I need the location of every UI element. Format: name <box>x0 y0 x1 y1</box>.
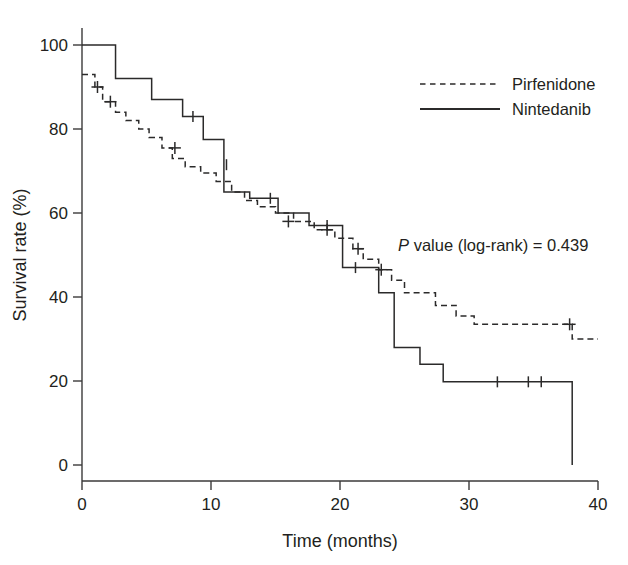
x-axis-ticks: 010203040 <box>77 481 607 514</box>
y-tick-label: 60 <box>49 204 68 223</box>
legend-label-pirfenidone: Pirfenidone <box>512 75 595 93</box>
x-tick-label: 40 <box>589 495 608 514</box>
x-axis-title: Time (months) <box>282 531 397 551</box>
x-tick-label: 30 <box>460 495 479 514</box>
legend-label-nintedanib: Nintedanib <box>512 100 591 118</box>
y-tick-label: 80 <box>49 120 68 139</box>
x-tick-label: 20 <box>331 495 350 514</box>
p-value-rest: value (log-rank) = 0.439 <box>409 236 588 254</box>
chart-canvas: 020406080100 010203040 Survival rate (%)… <box>0 0 628 565</box>
p-value-annotation: P value (log-rank) = 0.439 <box>398 236 588 254</box>
x-tick-label: 0 <box>77 495 86 514</box>
y-tick-label: 40 <box>49 288 68 307</box>
censor-marks <box>91 81 575 387</box>
chart-legend: PirfenidoneNintedanib <box>420 75 595 118</box>
p-symbol: P <box>398 236 409 254</box>
axis-group <box>82 28 598 481</box>
y-axis-title: Survival rate (%) <box>10 188 30 321</box>
y-tick-label: 20 <box>49 372 68 391</box>
x-tick-label: 10 <box>202 495 221 514</box>
kaplan-meier-chart: 020406080100 010203040 Survival rate (%)… <box>0 0 628 565</box>
y-tick-label: 0 <box>59 456 68 475</box>
y-tick-label: 100 <box>40 36 68 55</box>
y-axis-ticks: 020406080100 <box>40 36 82 475</box>
